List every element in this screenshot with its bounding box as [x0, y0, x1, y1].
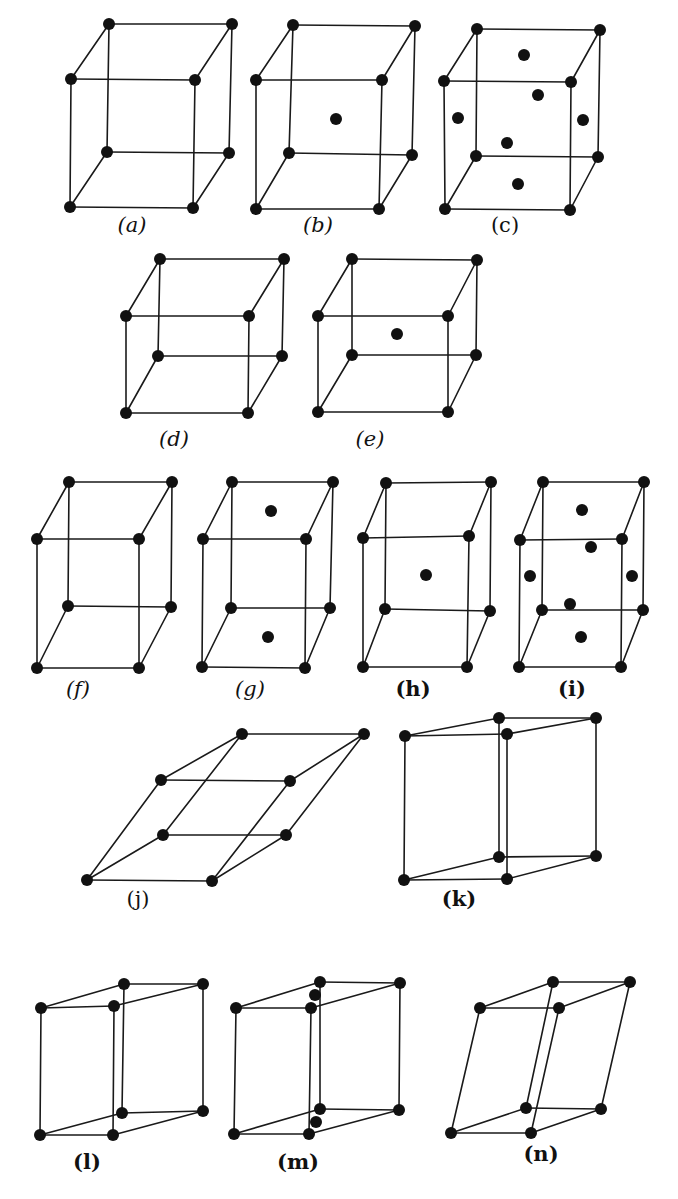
lattice-edge	[451, 1008, 480, 1133]
lattice-h: (h)	[357, 476, 497, 701]
corner-atom	[223, 147, 235, 159]
lattice-label: (c)	[491, 213, 519, 237]
lattice-edge	[193, 80, 195, 208]
lattice-edge	[70, 79, 71, 207]
lattice-edge	[444, 29, 477, 81]
lattice-edge	[87, 780, 161, 880]
lattice-edge	[379, 155, 412, 209]
corner-atom	[547, 976, 559, 988]
centered-atom	[309, 989, 321, 1001]
corner-atom	[63, 476, 75, 488]
corner-atom	[564, 204, 576, 216]
lattice-edge	[621, 610, 643, 667]
lattice-edge	[477, 29, 600, 30]
lattice-edge	[163, 734, 242, 835]
corner-atom	[133, 533, 145, 545]
lattice-edge	[571, 30, 600, 82]
lattice-edge	[107, 152, 229, 153]
corner-atom	[373, 203, 385, 215]
lattice-edge	[171, 482, 172, 607]
lattice-edge	[212, 781, 290, 881]
corner-atom	[445, 1127, 457, 1139]
corner-atom	[438, 75, 450, 87]
corner-atom	[31, 662, 43, 674]
centered-atom	[564, 598, 576, 610]
corner-atom	[81, 874, 93, 886]
centered-atom	[532, 89, 544, 101]
lattice-edge	[412, 26, 415, 155]
lattice-edge	[379, 80, 382, 209]
lattice-edge	[385, 609, 490, 611]
lattice-edge	[195, 24, 232, 80]
lattice-edge	[445, 156, 476, 209]
lattice-label: (e)	[356, 427, 385, 451]
lattice-edge	[451, 1108, 526, 1133]
lattice-edge	[37, 606, 68, 668]
corner-atom	[65, 73, 77, 85]
lattice-edge	[570, 82, 571, 210]
lattice-label: (d)	[159, 427, 189, 451]
lattice-edge	[71, 24, 109, 79]
lattice-edge	[621, 539, 622, 667]
corner-atom	[314, 1103, 326, 1115]
corner-atom	[62, 600, 74, 612]
lattice-edge	[490, 482, 491, 611]
corner-atom	[638, 476, 650, 488]
lattice-edge	[404, 879, 507, 880]
lattice-edge	[469, 482, 491, 536]
lattice-g: (g)	[196, 476, 339, 701]
corner-atom	[305, 1002, 317, 1014]
lattice-edge	[41, 1006, 114, 1008]
corner-atom	[189, 74, 201, 86]
corner-atom	[565, 76, 577, 88]
lattice-edge	[68, 606, 171, 607]
corner-atom	[394, 977, 406, 989]
lattice-edge	[363, 609, 385, 667]
corner-atom	[206, 875, 218, 887]
lattice-label: (l)	[73, 1149, 101, 1174]
centered-atom	[265, 505, 277, 517]
corner-atom	[283, 147, 295, 159]
corner-atom	[616, 533, 628, 545]
lattice-edge	[212, 835, 286, 881]
bravais-lattices-figure: (a)(b)(c)(d)(e)(f)(g)(h)(i)(j)(k)(l)(m)(…	[0, 0, 678, 1199]
corner-atom	[284, 775, 296, 787]
lattice-m: (m)	[228, 976, 406, 1174]
corner-atom	[520, 1102, 532, 1114]
lattice-edge	[404, 857, 499, 880]
corner-atom	[312, 310, 324, 322]
lattice-j: (j)	[81, 728, 370, 911]
lattice-n: (n)	[445, 976, 636, 1166]
lattice-edge	[293, 25, 415, 26]
lattice-edge	[305, 539, 306, 668]
corner-atom	[133, 662, 145, 674]
corner-atom	[442, 406, 454, 418]
lattice-a: (a)	[64, 18, 238, 237]
centered-atom	[330, 113, 342, 125]
lattice-edge	[282, 259, 284, 356]
corner-atom	[118, 978, 130, 990]
lattice-edge	[507, 718, 596, 734]
lattice-edge	[203, 482, 232, 539]
corner-atom	[594, 24, 606, 36]
lattice-label: (f)	[66, 677, 90, 701]
lattice-edge	[306, 482, 333, 539]
lattice-edge	[305, 608, 330, 668]
lattice-edge	[202, 667, 305, 668]
corner-atom	[120, 310, 132, 322]
corner-atom	[536, 604, 548, 616]
lattice-label: (n)	[523, 1141, 558, 1166]
lattice-diagram-canvas: (a)(b)(c)(d)(e)(f)(g)(h)(i)(j)(k)(l)(m)(…	[0, 0, 678, 1199]
lattice-edge	[309, 1008, 311, 1134]
corner-atom	[501, 873, 513, 885]
lattice-edge	[320, 1109, 399, 1110]
corner-atom	[346, 253, 358, 265]
corner-atom	[439, 203, 451, 215]
lattice-edge	[161, 734, 242, 780]
lattice-edge	[363, 536, 469, 538]
lattice-edge	[480, 982, 553, 1008]
lattice-d: (d)	[120, 253, 290, 451]
corner-atom	[242, 407, 254, 419]
centered-atom	[576, 504, 588, 516]
centered-atom	[626, 570, 638, 582]
